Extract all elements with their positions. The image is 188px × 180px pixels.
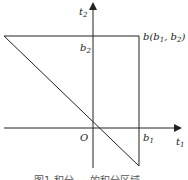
figure-caption: 图1 积分 … 的积分区域 [34,174,140,180]
t2-axis-label: t2 [79,6,88,19]
integration-region-diagram: t2 t1 O b2 b1 b(b1, b2) 图1 积分 … 的积分区域 [0,0,188,180]
origin-label: O [80,132,88,143]
diagonal-line [4,36,139,166]
t1-axis-label: t1 [176,136,185,149]
point-b-label: b(b1, b2) [143,31,185,44]
b1-label: b1 [143,132,154,145]
b2-label: b2 [80,42,91,55]
